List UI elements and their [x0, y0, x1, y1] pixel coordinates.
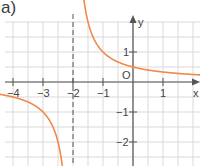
y-tick-label: 1	[123, 46, 129, 58]
curve-right-branch	[81, 0, 200, 75]
x-axis-arrow-icon	[192, 79, 200, 86]
y-axis-arrow-icon	[130, 15, 137, 23]
function-graph: −4−3−2−111−1−2Oxy	[0, 0, 200, 166]
curve-left-branch	[0, 94, 64, 166]
x-tick-label: −1	[97, 87, 110, 99]
x-tick-label: 1	[160, 87, 166, 99]
x-tick-label: −3	[37, 87, 50, 99]
y-tick-label: −1	[116, 106, 129, 118]
y-axis-label: y	[138, 16, 144, 28]
x-axis-label: x	[193, 87, 199, 99]
origin-label: O	[122, 69, 131, 81]
y-tick-label: −2	[116, 136, 129, 148]
x-tick-label: −2	[67, 87, 80, 99]
